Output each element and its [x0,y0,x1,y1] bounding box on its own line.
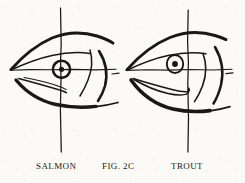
trout-axis-right-tick [226,73,233,74]
trout-head-drawing [126,10,233,152]
trout-gill-arc [214,47,223,104]
trout-eye-pupil [172,61,178,67]
salmon-axis-right-tick [112,73,119,74]
fish-comparison-illustration [0,0,245,183]
salmon-ventral-outline [96,102,118,106]
trout-ventral-outline [210,107,230,111]
salmon-eye-pupil [59,67,64,72]
salmon-head-drawing [10,8,119,152]
trout-vertical-axis-line [188,10,189,152]
figure-container: Salmon Fig. 2c Trout [0,0,245,183]
trout-horizontal-axis-line [126,69,232,70]
salmon-gill-cover-curve [80,50,92,96]
trout-gill-cover-curve [195,54,206,102]
salmon-lower-jaw-outline [16,80,96,107]
caption-label-salmon: Salmon [36,160,76,172]
salmon-inner-lip-line [24,78,66,90]
figure-caption-row: Salmon Fig. 2c Trout [0,158,245,178]
salmon-gill-arc [98,51,106,101]
caption-label-figure-number: Fig. 2c [102,160,134,172]
caption-label-trout: Trout [171,160,203,172]
salmon-vertical-axis-line [60,8,61,152]
